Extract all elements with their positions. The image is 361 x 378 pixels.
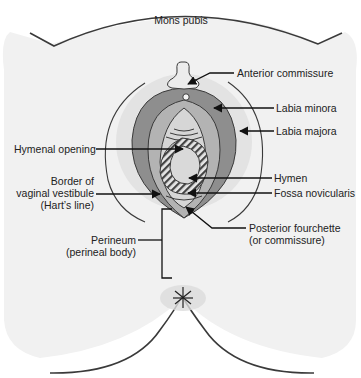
label-perineum: Perineum (perineal body) [54, 234, 136, 258]
label-hymenal-opening: Hymenal opening [14, 143, 96, 155]
label-mons-pubis: Mons pubis [150, 14, 212, 26]
label-fossa-novicularis: Fossa novicularis [274, 187, 355, 199]
label-hymen: Hymen [274, 172, 307, 184]
label-labia-minora: Labia minora [276, 102, 337, 114]
label-border-line3: (Hart’s line) [10, 199, 94, 211]
urethral-meatus [183, 94, 189, 100]
label-anterior-commissure: Anterior commissure [237, 67, 333, 79]
label-border-line1: Border of [10, 175, 94, 187]
label-posterior-fourchette: Posterior fourchette (or commissure) [249, 222, 341, 246]
label-border-vestibule: Border of vaginal vestibule (Hart’s line… [10, 175, 94, 211]
label-border-line2: vaginal vestibule [10, 187, 94, 199]
label-labia-majora: Labia majora [276, 125, 337, 137]
label-posterior-line1: Posterior fourchette [249, 222, 341, 234]
label-posterior-line2: (or commissure) [249, 234, 341, 246]
label-perineum-line1: Perineum [54, 234, 136, 246]
label-perineum-line2: (perineal body) [54, 246, 136, 258]
